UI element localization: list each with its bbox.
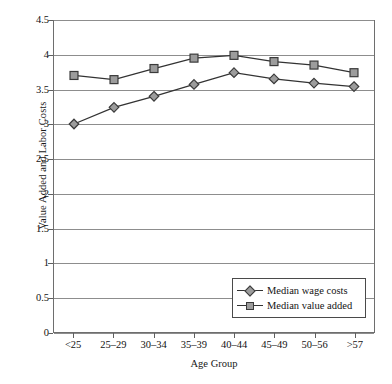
legend-label: Median wage costs — [267, 285, 347, 296]
x-tick-mark — [194, 333, 195, 338]
legend-marker-diamond-icon — [237, 285, 263, 297]
y-tick-label: 4 — [3, 50, 49, 61]
x-tick-mark — [315, 333, 316, 338]
y-tick-label: 2 — [3, 189, 49, 200]
data-point-diamond — [189, 80, 199, 90]
y-tick-label: 1.5 — [3, 223, 49, 234]
legend-label: Median value added — [267, 300, 352, 311]
y-tick-label: 4.5 — [3, 15, 49, 26]
data-point-square — [350, 69, 358, 77]
data-point-square — [110, 76, 118, 84]
y-tick-label: 1 — [3, 258, 49, 269]
x-tick-mark — [234, 333, 235, 338]
y-tick-label: 0 — [3, 328, 49, 339]
legend-marker-square-icon — [237, 300, 263, 312]
x-tick-mark — [73, 333, 74, 338]
data-point-square — [150, 65, 158, 73]
data-point-diamond — [229, 68, 239, 78]
x-tick-mark — [154, 333, 155, 338]
x-tick-label: >57 — [325, 340, 385, 351]
data-point-diamond — [269, 74, 279, 84]
chart-legend: Median wage costs Median value added — [232, 278, 366, 318]
chart-figure: Value Added and Labor Costs 00.511.522.5… — [0, 0, 392, 384]
data-point-diamond — [109, 103, 119, 113]
x-tick-mark — [355, 333, 356, 338]
data-point-diamond — [69, 119, 79, 129]
plot-area: Median wage costs Median value added — [53, 20, 375, 333]
data-point-square — [190, 54, 198, 62]
data-point-diamond — [349, 82, 359, 92]
x-tick-mark — [274, 333, 275, 338]
x-axis-title: Age Group — [53, 358, 375, 369]
y-axis-ticks: 00.511.522.533.544.5 — [0, 20, 49, 333]
y-tick-label: 3.5 — [3, 84, 49, 95]
data-point-square — [230, 51, 238, 59]
legend-item: Median wage costs — [237, 283, 360, 298]
data-point-square — [310, 61, 318, 69]
data-point-diamond — [309, 78, 319, 88]
data-point-diamond — [149, 91, 159, 101]
x-tick-mark — [113, 333, 114, 338]
y-tick-label: 0.5 — [3, 293, 49, 304]
x-axis-ticks: <2525–2930–3435–3940–4445–4950–56>57 — [53, 333, 375, 359]
legend-item: Median value added — [237, 298, 360, 313]
y-tick-label: 2.5 — [3, 154, 49, 165]
data-point-square — [70, 71, 78, 79]
y-tick-label: 3 — [3, 119, 49, 130]
data-point-square — [270, 58, 278, 66]
